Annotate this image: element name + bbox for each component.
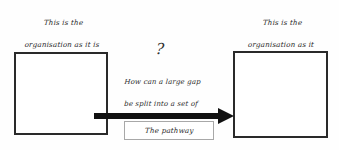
gap-question-line-2: be split into a set of <box>112 99 211 110</box>
pathway-label-box: The pathway <box>124 121 214 140</box>
future-state-box <box>233 51 328 138</box>
gap-question-line-1: How can a large gap <box>113 77 212 88</box>
caption-future-state-line-2: organisation as it <box>231 39 332 50</box>
caption-future-state-line-1: This is the <box>232 17 333 28</box>
diagram-canvas: This is the organisation as it is now Th… <box>0 0 339 150</box>
question-mark-icon: ? <box>149 42 170 57</box>
caption-current-state-line-2: organisation as it is <box>12 39 113 50</box>
current-state-box <box>14 52 108 135</box>
pathway-label: The pathway <box>144 126 193 135</box>
caption-current-state-line-1: This is the <box>13 17 114 28</box>
